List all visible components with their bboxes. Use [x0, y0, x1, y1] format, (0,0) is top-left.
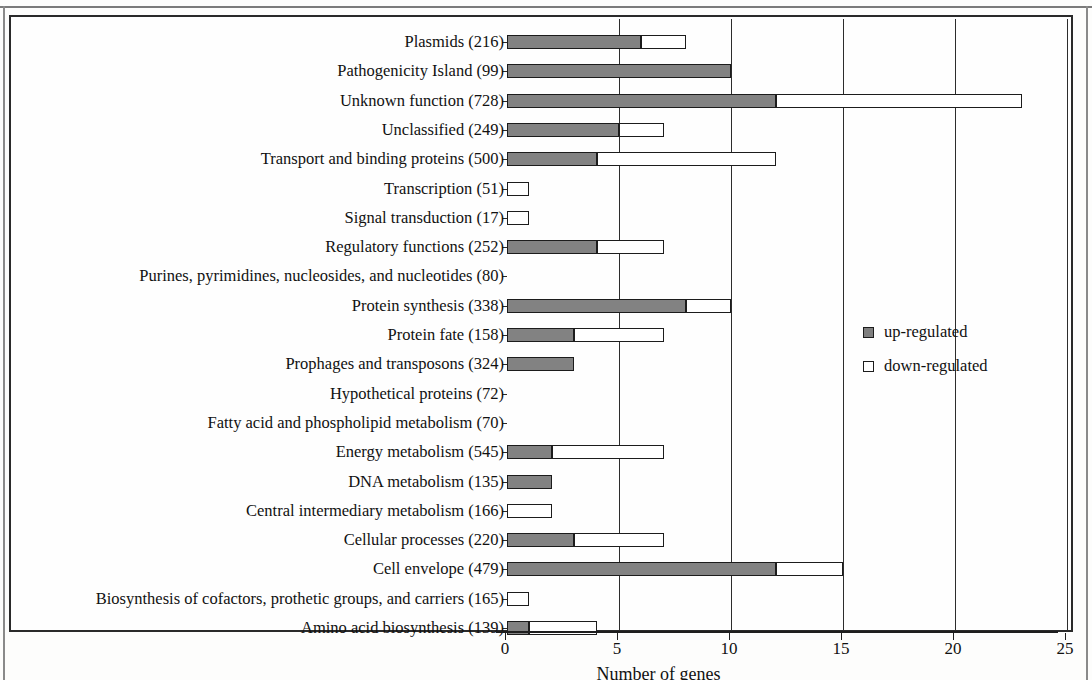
x-axis-tick-label-0: 0: [501, 639, 510, 659]
x-axis-tick-label-15: 15: [833, 639, 850, 659]
category-label: Signal transduction (17): [345, 207, 504, 229]
category-label: Hypothetical proteins (72): [330, 383, 504, 405]
bar-segment-up-regulated: [507, 123, 619, 137]
category-label: Energy metabolism (545): [336, 441, 504, 463]
chart-legend: up-regulated down-regulated: [863, 322, 988, 390]
bar-row: Fatty acid and phospholipid metabolism (…: [507, 410, 1067, 436]
category-label: Prophages and transposons (324): [285, 353, 504, 375]
bar-row: Pathogenicity Island (99): [507, 58, 1067, 84]
x-axis-tick-label-5: 5: [613, 639, 622, 659]
legend-swatch-up-icon: [863, 327, 874, 338]
bar-segment-up-regulated: [507, 357, 574, 371]
legend-label-up: up-regulated: [884, 322, 967, 342]
bar-segment-down-regulated: [507, 182, 529, 196]
bar-segment-down-regulated: [507, 592, 529, 606]
bar-row: Unknown function (728): [507, 88, 1067, 114]
bar-segment-down-regulated: [597, 240, 664, 254]
category-label: Amino acid biosynthesis (139): [301, 617, 504, 639]
legend-swatch-down-icon: [863, 361, 874, 372]
x-axis-tick-label-20: 20: [945, 639, 962, 659]
bar-row: Transcription (51): [507, 176, 1067, 202]
bar-segment-down-regulated: [552, 445, 664, 459]
scan-frame-left-rule: [3, 6, 5, 680]
category-label: Pathogenicity Island (99): [337, 60, 504, 82]
category-label: DNA metabolism (135): [348, 471, 504, 493]
x-axis-tick-label-10: 10: [721, 639, 738, 659]
category-label: Purines, pyrimidines, nucleosides, and n…: [139, 265, 504, 287]
x-axis-title-text: Number of genes: [597, 664, 721, 680]
bar-row: Protein synthesis (338): [507, 293, 1067, 319]
bar-segment-down-regulated: [597, 152, 776, 166]
category-label: Cellular processes (220): [344, 529, 504, 551]
bar-segment-down-regulated: [574, 533, 664, 547]
gridline-x-25: [1067, 19, 1068, 632]
bar-row: Signal transduction (17): [507, 205, 1067, 231]
bar-segment-up-regulated: [507, 35, 641, 49]
category-label: Transport and binding proteins (500): [261, 148, 504, 170]
bar-row: Regulatory functions (252): [507, 234, 1067, 260]
bar-row: Purines, pyrimidines, nucleosides, and n…: [507, 263, 1067, 289]
category-label: Biosynthesis of cofactors, prothetic gro…: [96, 588, 504, 610]
bar-segment-up-regulated: [507, 562, 776, 576]
bar-segment-down-regulated: [507, 504, 552, 518]
bar-segment-up-regulated: [507, 445, 552, 459]
bar-row: Cell envelope (479): [507, 556, 1067, 582]
bar-row: Transport and binding proteins (500): [507, 146, 1067, 172]
bar-segment-down-regulated: [507, 211, 529, 225]
category-label: Cell envelope (479): [373, 558, 504, 580]
bar-segment-up-regulated: [507, 152, 597, 166]
bar-row: Plasmids (216): [507, 29, 1067, 55]
category-label: Protein fate (158): [388, 324, 504, 346]
bar-segment-up-regulated: [507, 299, 686, 313]
bar-row: Cellular processes (220): [507, 527, 1067, 553]
bar-segment-down-regulated: [776, 94, 1022, 108]
category-label: Regulatory functions (252): [325, 236, 504, 258]
x-axis-title: Number of genes: [0, 664, 1092, 680]
bar-segment-up-regulated: [507, 240, 597, 254]
bar-row: Unclassified (249): [507, 117, 1067, 143]
bar-segment-down-regulated: [686, 299, 731, 313]
legend-item-down-regulated: down-regulated: [863, 356, 988, 376]
scan-frame-right-rule: [1086, 6, 1088, 680]
bar-row: Biosynthesis of cofactors, prothetic gro…: [507, 586, 1067, 612]
category-label: Plasmids (216): [405, 31, 504, 53]
category-label: Unknown function (728): [340, 90, 504, 112]
x-axis-tick-label-25: 25: [1057, 639, 1074, 659]
bar-segment-down-regulated: [574, 328, 664, 342]
bar-row: DNA metabolism (135): [507, 469, 1067, 495]
bar-segment-up-regulated: [507, 64, 731, 78]
chart-page: Plasmids (216)Pathogenicity Island (99)U…: [0, 0, 1092, 680]
bar-row: Amino acid biosynthesis (139): [507, 615, 1067, 641]
x-axis-line: [496, 631, 1058, 633]
bar-segment-up-regulated: [507, 475, 552, 489]
category-label: Transcription (51): [384, 178, 504, 200]
category-label: Central intermediary metabolism (166): [246, 500, 504, 522]
bar-segment-up-regulated: [507, 533, 574, 547]
bar-row: Energy metabolism (545): [507, 439, 1067, 465]
category-label: Protein synthesis (338): [352, 295, 504, 317]
category-label: Fatty acid and phospholipid metabolism (…: [207, 412, 504, 434]
bar-row: Central intermediary metabolism (166): [507, 498, 1067, 524]
category-label: Unclassified (249): [382, 119, 504, 141]
bar-segment-down-regulated: [619, 123, 664, 137]
legend-item-up-regulated: up-regulated: [863, 322, 988, 342]
bar-segment-up-regulated: [507, 328, 574, 342]
bar-segment-up-regulated: [507, 94, 776, 108]
chart-plot-frame: Plasmids (216)Pathogenicity Island (99)U…: [9, 15, 1073, 632]
bar-segment-down-regulated: [641, 35, 686, 49]
legend-label-down: down-regulated: [884, 356, 988, 376]
scan-frame-top-rule: [0, 6, 1092, 8]
bar-segment-down-regulated: [776, 562, 843, 576]
